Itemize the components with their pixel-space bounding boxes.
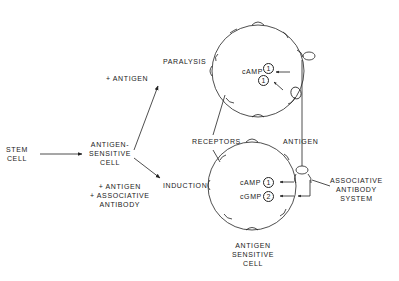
receptors-leader-top — [213, 95, 225, 135]
lower-path-line: + ANTIGEN — [90, 182, 150, 191]
top-signal-2: 1 — [258, 75, 269, 86]
top-signal-1: 1 — [263, 63, 274, 74]
stem-cell-label: STEM CELL — [6, 145, 28, 163]
bottom-signal-cgmp: 2 — [263, 191, 274, 202]
system-leader — [312, 180, 330, 186]
asc-line: SENSITIVE — [89, 149, 131, 158]
lower-path-line: ANTIBODY — [90, 200, 150, 209]
receptors-label: RECEPTORS — [192, 137, 241, 146]
paralysis-label: PARALYSIS — [163, 57, 206, 66]
bottom-cell-messenger-camp: cAMP — [240, 178, 261, 187]
system-line: SYSTEM — [330, 194, 383, 203]
arrow-to-paralysis — [134, 86, 158, 150]
bottom-cell-label: ANTIGEN SENSITIVE CELL — [232, 241, 274, 268]
antigen-label: ANTIGEN — [283, 137, 318, 146]
bottom-signal-camp: 1 — [263, 177, 274, 188]
stem-cell-line: CELL — [6, 154, 28, 163]
antigen-sensitive-cell-label: ANTIGEN- SENSITIVE CELL — [89, 140, 131, 167]
induction-label: INDUCTION — [163, 181, 207, 190]
antigen-oval — [303, 52, 315, 60]
asc-line: ANTIGEN- — [89, 140, 131, 149]
associative-system-label: ASSOCIATIVE ANTIBODY SYSTEM — [330, 176, 383, 203]
antigen-oval — [296, 166, 308, 174]
asc-line: CELL — [89, 158, 131, 167]
lower-path-label: + ANTIGEN + ASSOCIATIVE ANTIBODY — [90, 182, 150, 209]
system-line: ANTIBODY — [330, 185, 383, 194]
bottom-cell-messenger-cgmp: cGMP — [240, 192, 262, 201]
lower-path-line: + ASSOCIATIVE — [90, 191, 150, 200]
bottom-cell-line: SENSITIVE — [232, 250, 274, 259]
system-line: ASSOCIATIVE — [330, 176, 383, 185]
stem-cell-line: STEM — [6, 145, 28, 154]
arrow-to-induction — [134, 158, 160, 178]
upper-path-label: + ANTIGEN — [106, 74, 148, 83]
bottom-cell-line: ANTIGEN — [232, 241, 274, 250]
bottom-cell-line: CELL — [232, 259, 274, 268]
top-cell-messenger: cAMP — [242, 67, 263, 76]
